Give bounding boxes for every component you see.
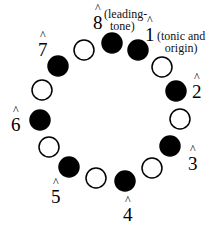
open-circle	[86, 168, 106, 188]
tonic-note: (tonic andorigin)	[157, 30, 205, 54]
open-circle	[170, 109, 190, 129]
degree-1-label: ^1	[145, 16, 155, 46]
degree-3-label: ^3	[188, 145, 198, 175]
filled-circle	[48, 56, 68, 76]
degree-5-label: ^5	[51, 178, 61, 208]
degree-4-label: ^4	[123, 196, 133, 226]
open-circle	[32, 80, 52, 100]
degree-7-label: ^7	[38, 31, 48, 61]
filled-circle	[59, 157, 79, 177]
filled-circle	[30, 110, 50, 130]
degree-2-label: ^2	[192, 73, 202, 103]
leading-tone-note: (leading-tone)	[104, 8, 147, 32]
filled-circle	[115, 171, 135, 191]
open-circle	[152, 57, 172, 77]
degree-6-label: ^6	[11, 106, 21, 136]
filled-circle	[102, 33, 122, 53]
filled-circle	[166, 81, 186, 101]
degree-8-label: ^8	[93, 4, 103, 34]
open-circle	[74, 40, 94, 60]
open-circle	[142, 158, 162, 178]
filled-circle	[160, 136, 180, 156]
open-circle	[39, 137, 59, 157]
